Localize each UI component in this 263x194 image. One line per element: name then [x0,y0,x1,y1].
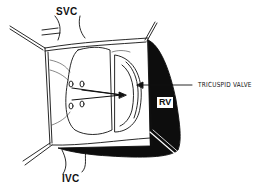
retractor-top-left [10,26,45,48]
ivc-vessel [62,150,66,174]
arrow-head [119,92,126,98]
heart-illustration [0,0,263,194]
retractor-top-right [145,22,155,40]
retractor-bottom-left [25,145,52,165]
tricuspid-valve-label: TRICUSPID VALVE [198,82,252,89]
ivc-label: IVC [62,174,80,184]
svc-label: SVC [56,7,77,17]
atrial-wall-bottom [52,138,150,145]
atrial-wall-left [45,48,50,145]
rv-label: RV [157,97,173,108]
coronary-sinus-orifice-1 [69,81,73,87]
